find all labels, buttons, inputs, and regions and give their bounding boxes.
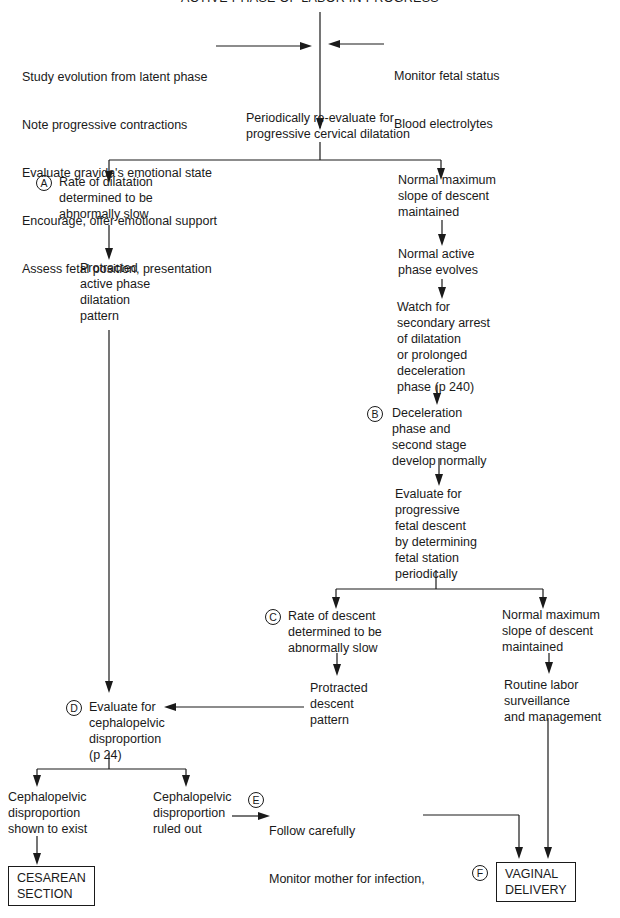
left-note: Note progressive contractions: [22, 117, 217, 133]
node-e-list: Follow carefully Monitor mother for infe…: [269, 791, 425, 918]
marker-d-icon: D: [66, 700, 82, 716]
node-c-text: Rate of descent determined to be abnorma…: [288, 608, 382, 656]
cpd-ruled-out: Cephalopelvic disproportion ruled out: [153, 789, 232, 837]
node-e-line: Follow carefully: [269, 823, 425, 839]
node-e-line: Monitor mother for infection,: [269, 871, 425, 887]
cpd-exists: Cephalopelvic disproportion shown to exi…: [8, 789, 87, 837]
node-b-text: Deceleration phase and second stage deve…: [392, 405, 487, 469]
reevaluate-node: Periodically re-evaluate for progressive…: [246, 110, 410, 142]
marker-e-icon: E: [248, 792, 264, 808]
watch-for-node: Watch for secondary arrest of dilatation…: [397, 299, 490, 395]
left-note: Study evolution from latent phase: [22, 69, 217, 85]
marker-c-icon: C: [265, 609, 281, 625]
right-notes: Monitor fetal status Blood electrolytes: [394, 36, 500, 164]
marker-a-icon: A: [36, 175, 52, 191]
vaginal-delivery-box: VAGINAL DELIVERY: [496, 862, 576, 902]
normal-slope-2: Normal maximum slope of descent maintain…: [502, 607, 600, 655]
evaluate-descent-node: Evaluate for progressive fetal descent b…: [395, 486, 477, 582]
normal-slope-1: Normal maximum slope of descent maintain…: [398, 172, 496, 220]
marker-b-icon: B: [367, 406, 383, 422]
node-d-text: Evaluate for cephalopelvic disproportion…: [89, 699, 165, 763]
flowchart-canvas: ACTIVE PHASE OF LABOR IN PROGRESS Study …: [0, 0, 620, 918]
cesarean-section-box: CESAREAN SECTION: [8, 866, 95, 906]
protracted-active-phase: Protracted active phase dilatation patte…: [80, 260, 150, 324]
routine-surveillance: Routine labor surveillance and managemen…: [504, 677, 601, 725]
marker-f-icon: F: [472, 865, 488, 881]
node-a-text: Rate of dilatation determined to be abno…: [59, 174, 153, 222]
right-note: Monitor fetal status: [394, 68, 500, 84]
diagram-title: ACTIVE PHASE OF LABOR IN PROGRESS: [0, 0, 620, 5]
protracted-descent: Protracted descent pattern: [310, 680, 368, 728]
normal-active-phase: Normal active phase evolves: [398, 246, 478, 278]
